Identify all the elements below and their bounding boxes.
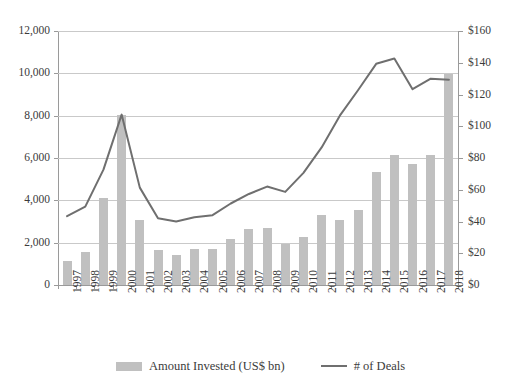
left-axis-tick-label: 0 (0, 279, 50, 291)
legend-item-number-of-deals: # of Deals (321, 359, 405, 374)
x-axis-label-2002: 2002 (163, 270, 175, 293)
plot-area (58, 31, 458, 285)
left-axis-tick-label: 6,000 (0, 152, 50, 164)
x-axis-label-2008: 2008 (272, 270, 284, 293)
x-axis-label-2016: 2016 (418, 270, 430, 293)
right-axis-tick-label: $60 (468, 184, 485, 196)
x-axis-label-2006: 2006 (236, 270, 248, 293)
right-axis-tick-label: $100 (468, 120, 491, 132)
legend-item-amount-invested: Amount Invested (US$ bn) (116, 359, 285, 374)
x-axis-label-2001: 2001 (145, 270, 157, 293)
right-axis-tick-mark (459, 253, 463, 254)
x-axis-label-2014: 2014 (381, 270, 393, 293)
left-axis-tick-label: 8,000 (0, 110, 50, 122)
x-axis-label-1999: 1999 (108, 270, 120, 293)
chart-container: 02,0004,0006,0008,00010,00012,000 $0$20$… (0, 0, 521, 383)
x-axis-label-2004: 2004 (199, 270, 211, 293)
chart-legend: Amount Invested (US$ bn) # of Deals (0, 355, 521, 377)
right-axis-tick-label: $0 (468, 279, 480, 291)
x-axis-label-1998: 1998 (90, 270, 102, 293)
right-axis-tick-mark (459, 95, 463, 96)
right-axis-tick-mark (459, 126, 463, 127)
right-axis-tick-label: $80 (468, 152, 485, 164)
right-axis-tick-label: $120 (468, 89, 491, 101)
x-axis-label-2005: 2005 (218, 270, 230, 293)
x-axis-label-1997: 1997 (72, 270, 84, 293)
left-axis-tick-label: 2,000 (0, 237, 50, 249)
right-axis-tick-label: $20 (468, 247, 485, 259)
x-axis-label-2010: 2010 (308, 270, 320, 293)
x-axis-label-2011: 2011 (327, 270, 339, 293)
deals-polyline (67, 59, 449, 222)
right-axis-tick-mark (459, 63, 463, 64)
x-axis-label-2015: 2015 (399, 270, 411, 293)
right-axis-tick-label: $160 (468, 25, 491, 37)
right-axis-tick-label: $140 (468, 57, 491, 69)
right-axis-tick-mark (459, 31, 463, 32)
right-axis-tick-label: $40 (468, 216, 485, 228)
x-axis-label-2009: 2009 (290, 270, 302, 293)
x-axis-tick-mark (58, 285, 59, 289)
right-axis-tick-mark (459, 222, 463, 223)
right-axis-tick-mark (459, 190, 463, 191)
x-axis-label-2000: 2000 (127, 270, 139, 293)
left-axis-tick-label: 12,000 (0, 25, 50, 37)
x-axis-label-2007: 2007 (254, 270, 266, 293)
legend-label-number-of-deals: # of Deals (354, 359, 405, 374)
bar-swatch-icon (116, 362, 142, 371)
line-series-number-of-deals (58, 31, 458, 285)
line-swatch-icon (321, 365, 347, 367)
right-axis-tick-mark (459, 158, 463, 159)
left-axis-tick-label: 10,000 (0, 67, 50, 79)
left-axis-tick-label: 4,000 (0, 194, 50, 206)
x-axis-label-2012: 2012 (345, 270, 357, 293)
x-axis-label-2013: 2013 (363, 270, 375, 293)
x-axis-label-2017: 2017 (436, 270, 448, 293)
legend-label-amount-invested: Amount Invested (US$ bn) (149, 359, 285, 374)
x-axis-label-2003: 2003 (181, 270, 193, 293)
x-axis-label-2018: 2018 (454, 270, 466, 293)
